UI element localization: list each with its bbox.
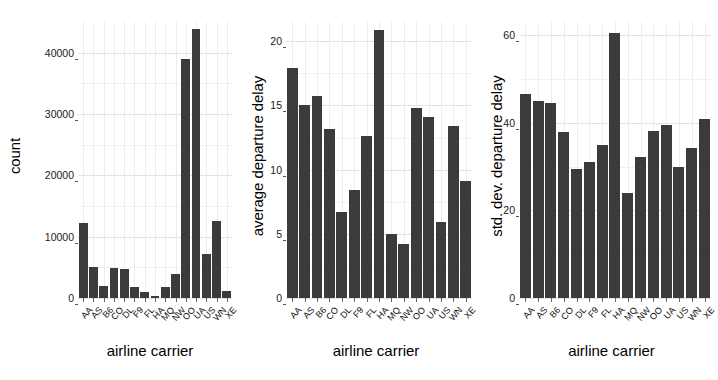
x-axis-tick-mark [206, 298, 207, 302]
x-axis-tick-mark [666, 298, 667, 302]
y-axis-tick-label: 5 [276, 228, 282, 240]
y-axis-tick-label: 20 [270, 35, 282, 47]
gridline-vertical [176, 22, 177, 298]
x-axis-tick-mark [653, 298, 654, 302]
x-axis-tick-mark [564, 298, 565, 302]
x-axis-tick-mark [165, 298, 166, 302]
x-axis-tick-label: XE [462, 305, 477, 321]
bar [312, 96, 323, 298]
bar [374, 30, 385, 298]
x-axis-tick-mark [124, 298, 125, 302]
x-axis-tick-mark [227, 298, 228, 302]
bar [120, 269, 129, 298]
bar [398, 244, 409, 298]
x-axis-tick-mark [692, 298, 693, 302]
bar [558, 132, 569, 298]
x-axis-tick-mark [186, 298, 187, 302]
bar [571, 169, 582, 298]
x-axis-title-std-dev-delay: airline carrier [509, 338, 714, 362]
gridline-vertical [134, 22, 135, 298]
bar [299, 105, 310, 298]
bar [460, 181, 471, 298]
bar [448, 126, 459, 298]
x-axis-tick-mark [305, 298, 306, 302]
bar [336, 212, 347, 298]
x-axis-tick-mark [429, 298, 430, 302]
x-axis-title-avg-delay: airline carrier [276, 338, 476, 362]
x-axis-tick-mark [525, 298, 526, 302]
x-axis-labels-count: AAASB6CODLF9FLHAMQNWOOUAUSWNXE [78, 303, 232, 337]
bar [222, 291, 231, 298]
x-axis-tick-mark [441, 298, 442, 302]
bar [181, 59, 190, 298]
gridline-vertical [165, 22, 166, 298]
bar [411, 108, 422, 298]
figure-container: count 010000200003000040000 AAASB6CODLF9… [0, 0, 718, 380]
x-axis-title-count: airline carrier [60, 338, 240, 362]
x-axis-tick-mark [551, 298, 552, 302]
x-axis-labels-std-dev-delay: AAASB6CODLF9FLHAMQNWOOUAUSWNXE [519, 303, 711, 337]
x-axis-tick-mark [217, 298, 218, 302]
bar [349, 190, 360, 298]
x-axis-tick-mark [317, 298, 318, 302]
bar [212, 221, 221, 298]
x-axis-tick-mark [83, 298, 84, 302]
bar [597, 145, 608, 298]
x-axis-tick-mark [354, 298, 355, 302]
x-axis-tick-mark [641, 298, 642, 302]
x-axis-tick-mark [628, 298, 629, 302]
bar [533, 101, 544, 298]
y-axis-tick-label: 15 [270, 99, 282, 111]
bar [635, 157, 646, 298]
bar [287, 68, 298, 298]
x-axis-tick-mark [466, 298, 467, 302]
panel-std-dev-delay: std. dev. departure delay 0204060 AAASB6… [479, 0, 718, 380]
y-axis-tick-label: 0 [68, 292, 74, 304]
x-axis-tick-mark [538, 298, 539, 302]
gridline-vertical [124, 22, 125, 298]
plot-area-std-dev-delay [519, 22, 711, 298]
bar [661, 125, 672, 298]
gridline-vertical [114, 22, 115, 298]
bar [386, 234, 397, 298]
bar [89, 267, 98, 298]
bar [171, 274, 180, 298]
bar [423, 117, 434, 298]
x-axis-tick-mark [196, 298, 197, 302]
plot-area-avg-delay [286, 22, 472, 298]
y-axis-tick-label: 0 [509, 292, 515, 304]
bar [110, 268, 119, 298]
y-axis-labels-std-dev-delay: 0204060 [491, 22, 515, 298]
y-axis-tick-label: 20 [503, 204, 515, 216]
x-axis-tick-mark [577, 298, 578, 302]
x-axis-tick-mark [114, 298, 115, 302]
gridline-vertical [155, 22, 156, 298]
x-axis-tick-mark [416, 298, 417, 302]
x-axis-tick-mark [292, 298, 293, 302]
bar [545, 103, 556, 298]
y-axis-tick-label: 10000 [45, 231, 74, 243]
gridline-vertical [145, 22, 146, 298]
bar [673, 167, 684, 298]
y-axis-tick-label: 60 [503, 29, 515, 41]
bar [622, 193, 633, 298]
bar [161, 287, 170, 298]
x-axis-tick-mark [329, 298, 330, 302]
x-axis-labels-avg-delay: AAASB6CODLF9FLHAMQNWOOUAUSWNXE [286, 303, 472, 337]
bar [699, 119, 710, 298]
bar [202, 254, 211, 298]
bar [324, 129, 335, 298]
x-axis-tick-mark [379, 298, 380, 302]
y-axis-tick-label: 20000 [45, 169, 74, 181]
bar [436, 222, 447, 298]
bar [192, 29, 201, 298]
x-axis-tick-mark [391, 298, 392, 302]
bar [648, 131, 659, 298]
x-axis-tick-mark [589, 298, 590, 302]
bar [361, 136, 372, 298]
y-axis-tick-label: 40000 [45, 47, 74, 59]
y-axis-title-count: count [2, 0, 26, 346]
gridline-vertical [93, 22, 94, 298]
gridline-vertical [104, 22, 105, 298]
y-axis-tick-label: 30000 [45, 108, 74, 120]
